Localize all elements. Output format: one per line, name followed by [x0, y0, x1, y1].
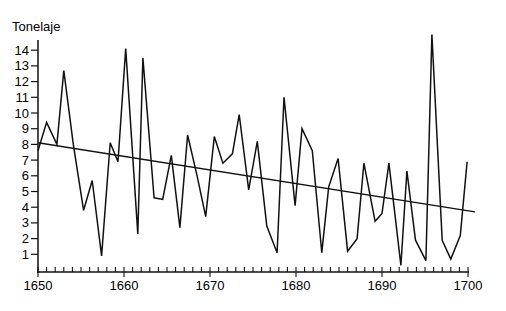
- y-tick-label: 11: [16, 90, 30, 105]
- x-tick-label: 1660: [110, 278, 139, 293]
- y-tick-label: 7: [22, 153, 29, 168]
- y-tick-label: 8: [22, 137, 29, 152]
- y-tick-label: 9: [22, 121, 29, 136]
- x-axis-ticks: 165016601670168016901700: [24, 267, 483, 293]
- x-tick-label: 1700: [454, 278, 483, 293]
- y-tick-label: 2: [22, 231, 29, 246]
- y-tick-label: 10: [15, 106, 29, 121]
- y-tick-label: 5: [22, 184, 29, 199]
- x-tick-label: 1650: [24, 278, 53, 293]
- y-tick-label: 3: [22, 215, 29, 230]
- y-tick-label: 6: [22, 168, 29, 183]
- y-tick-label: 1: [22, 247, 29, 262]
- y-tick-label: 12: [15, 74, 29, 89]
- y-axis-title: Tonelaje: [12, 19, 60, 34]
- trend-line: [38, 143, 475, 212]
- y-tick-label: 13: [15, 58, 29, 73]
- y-axis-ticks: 1234567891011121314: [15, 43, 38, 262]
- line-chart: Tonelaje 1234567891011121314 16501660167…: [0, 0, 506, 311]
- data-series-line: [38, 35, 467, 266]
- x-tick-label: 1680: [282, 278, 311, 293]
- x-tick-label: 1690: [368, 278, 397, 293]
- y-tick-label: 4: [22, 200, 29, 215]
- axes: [37, 40, 469, 273]
- x-tick-label: 1670: [196, 278, 225, 293]
- y-tick-label: 14: [15, 43, 29, 58]
